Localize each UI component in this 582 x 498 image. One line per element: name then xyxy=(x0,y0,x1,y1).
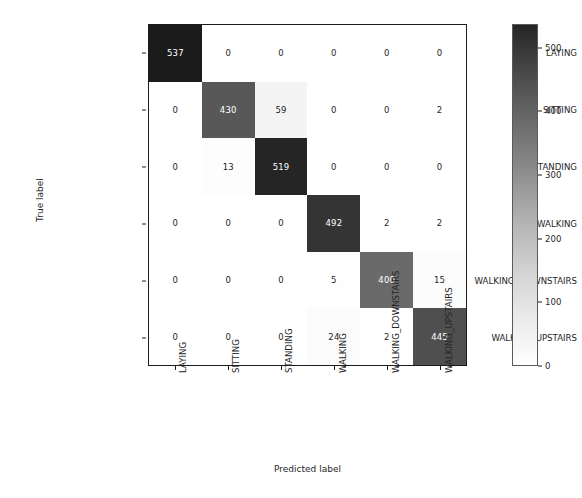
matrix-cell: 0 xyxy=(307,138,360,195)
y-tick-label: WALKING_DOWNSTAIRS xyxy=(439,276,577,286)
y-tick-mark xyxy=(142,223,146,224)
matrix-cell: 537 xyxy=(149,25,202,82)
matrix-cell: 0 xyxy=(360,82,413,139)
matrix-cell-value: 0 xyxy=(331,105,337,115)
x-tick-mark xyxy=(334,366,335,370)
y-tick-mark xyxy=(142,166,146,167)
matrix-cell: 492 xyxy=(307,195,360,252)
colorbar-tick-mark xyxy=(538,47,542,48)
x-tick-label: STANDING xyxy=(284,328,294,373)
colorbar-tick-mark xyxy=(538,174,542,175)
x-axis-title: Predicted label xyxy=(0,464,582,474)
matrix-cell-value: 0 xyxy=(225,48,231,58)
x-tick-label: WALKING_UPSTAIRS xyxy=(444,287,454,373)
matrix-cell: 0 xyxy=(202,308,255,365)
colorbar-tick-label: 400 xyxy=(545,106,561,116)
matrix-cell-value: 0 xyxy=(384,105,390,115)
matrix-cell-value: 0 xyxy=(278,218,284,228)
matrix-cell: 0 xyxy=(360,25,413,82)
matrix-cell: 0 xyxy=(202,195,255,252)
matrix-cell: 0 xyxy=(202,252,255,309)
matrix-cell: 0 xyxy=(255,195,308,252)
y-tick-label: WALKING_UPSTAIRS xyxy=(439,333,577,343)
x-tick-mark xyxy=(440,366,441,370)
matrix-cell-value: 5 xyxy=(331,275,337,285)
matrix-cell-value: 0 xyxy=(173,105,179,115)
x-tick-label: LAYING xyxy=(178,342,188,373)
colorbar-tick-label: 300 xyxy=(545,170,561,180)
matrix-cell-value: 0 xyxy=(278,48,284,58)
matrix-axes: 5370000004305900201351900000049222000540… xyxy=(148,24,467,366)
matrix-cell-grid: 5370000004305900201351900000049222000540… xyxy=(149,25,466,365)
matrix-cell-value: 537 xyxy=(167,48,184,58)
matrix-cell: 519 xyxy=(255,138,308,195)
x-tick-label: SITTING xyxy=(231,339,241,373)
matrix-cell: 0 xyxy=(149,138,202,195)
matrix-cell: 2 xyxy=(360,195,413,252)
y-tick-mark xyxy=(142,52,146,53)
matrix-cell: 2 xyxy=(360,308,413,365)
matrix-cell: 59 xyxy=(255,82,308,139)
matrix-cell: 0 xyxy=(360,138,413,195)
matrix-cell-value: 13 xyxy=(223,162,234,172)
matrix-cell: 0 xyxy=(255,308,308,365)
x-tick-mark xyxy=(281,366,282,370)
matrix-cell-value: 492 xyxy=(325,218,342,228)
matrix-cell-value: 59 xyxy=(275,105,286,115)
matrix-cell-value: 519 xyxy=(273,162,290,172)
matrix-cell-value: 0 xyxy=(384,48,390,58)
matrix-cell-value: 0 xyxy=(225,218,231,228)
matrix-cell: 5 xyxy=(307,252,360,309)
matrix-cell-value: 2 xyxy=(384,332,390,342)
matrix-cell-value: 0 xyxy=(173,162,179,172)
matrix-cell: 24 xyxy=(307,308,360,365)
matrix-cell: 0 xyxy=(149,195,202,252)
y-tick-label: WALKING xyxy=(439,219,577,229)
colorbar-tick-mark xyxy=(538,302,542,303)
matrix-cell: 0 xyxy=(307,25,360,82)
matrix-cell: 400 xyxy=(360,252,413,309)
x-tick-mark xyxy=(387,366,388,370)
matrix-cell: 0 xyxy=(255,252,308,309)
colorbar-tick-label: 200 xyxy=(545,234,561,244)
x-tick-label: WALKING xyxy=(338,333,348,373)
matrix-cell-value: 430 xyxy=(220,105,237,115)
colorbar-tick-label: 100 xyxy=(545,297,561,307)
matrix-cell-value: 0 xyxy=(331,162,337,172)
matrix-cell: 0 xyxy=(202,25,255,82)
y-tick-mark xyxy=(142,337,146,338)
colorbar-gradient xyxy=(512,24,538,366)
y-axis-title: True label xyxy=(35,178,45,222)
colorbar-tick-label: 0 xyxy=(545,361,550,371)
colorbar-tick-label: 500 xyxy=(545,43,561,53)
matrix-cell: 0 xyxy=(149,308,202,365)
matrix-cell-value: 0 xyxy=(173,275,179,285)
colorbar-tick-mark xyxy=(538,366,542,367)
matrix-cell: 0 xyxy=(149,252,202,309)
matrix-cell: 13 xyxy=(202,138,255,195)
colorbar-tick-mark xyxy=(538,238,542,239)
y-tick-mark xyxy=(142,109,146,110)
matrix-cell: 430 xyxy=(202,82,255,139)
y-tick-mark xyxy=(142,280,146,281)
x-tick-mark xyxy=(228,366,229,370)
matrix-cell-value: 0 xyxy=(173,332,179,342)
matrix-cell: 0 xyxy=(307,82,360,139)
matrix-cell-value: 0 xyxy=(384,162,390,172)
x-tick-label: WALKING_DOWNSTAIRS xyxy=(391,271,401,373)
x-tick-mark xyxy=(175,366,176,370)
matrix-cell-value: 0 xyxy=(331,48,337,58)
colorbar-tick-mark xyxy=(538,111,542,112)
matrix-cell-value: 0 xyxy=(225,275,231,285)
matrix-cell-value: 2 xyxy=(384,218,390,228)
matrix-cell: 0 xyxy=(149,82,202,139)
matrix-cell-value: 0 xyxy=(173,218,179,228)
matrix-cell: 0 xyxy=(255,25,308,82)
matrix-cell-value: 0 xyxy=(278,275,284,285)
colorbar xyxy=(512,24,538,366)
